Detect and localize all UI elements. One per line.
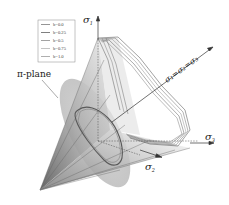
pi-plane-leader (42, 80, 58, 98)
sigma2-label: σ2 (145, 161, 155, 173)
sigma3-label: σ3 (205, 131, 215, 143)
sigma1-label: σ1 (83, 14, 93, 26)
svg-text:b=0.75: b=0.75 (53, 46, 67, 51)
pi-plane-label: π-plane (17, 69, 51, 79)
svg-text:b=0.25: b=0.25 (53, 30, 67, 35)
hydrostatic-axis-label: σ₁=σ₂=σ₃ (163, 54, 200, 84)
svg-text:b=0.5: b=0.5 (53, 38, 64, 43)
svg-text:b=0.0: b=0.0 (53, 22, 64, 27)
legend: b=0.0 b=0.25 b=0.5 b=0.75 b=1.0 (38, 20, 75, 62)
yield-surface-diagram: σ1 σ3 σ2 σ₁=σ₂=σ₃ π-plane b=0.0 b=0.25 b… (0, 0, 229, 205)
svg-text:b=1.0: b=1.0 (53, 54, 64, 59)
